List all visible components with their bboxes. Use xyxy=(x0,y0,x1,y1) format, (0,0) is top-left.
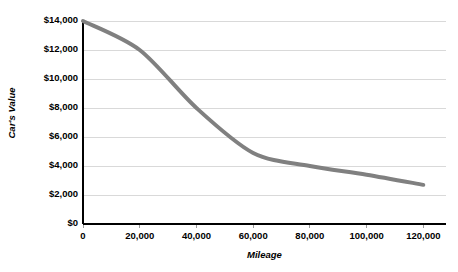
value-depreciation-line xyxy=(83,21,423,185)
car-value-vs-mileage-chart: Car's Value $0$2,000$4,000$6,000$8,000$1… xyxy=(0,0,458,272)
plot-area xyxy=(0,0,458,272)
